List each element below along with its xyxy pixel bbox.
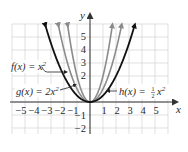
annotation-h: h(x) = 1 2 x2 <box>108 84 169 99</box>
x-tick-label: 5 <box>153 105 158 116</box>
y-tick-label: 5 <box>81 31 86 42</box>
label-f: f(x) = x2 <box>11 60 47 73</box>
y-axis-label: y <box>79 9 85 21</box>
x-tick-label: −3 <box>41 105 52 116</box>
annotation-g: g(x) = 2x2 <box>15 84 75 98</box>
parabola-graph: x y −5 −4 −3 −2 −1 1 2 3 4 5 5 4 3 2 −1 … <box>0 0 188 152</box>
y-tick-labels: 5 4 3 2 −1 −2 <box>75 31 87 134</box>
label-h: h(x) = <box>119 86 146 98</box>
fraction-denominator: 2 <box>152 93 155 99</box>
y-tick-label: 4 <box>81 44 87 55</box>
x-tick-label: −2 <box>54 105 65 116</box>
x-axis-label: x <box>175 103 181 115</box>
x-tick-label: 4 <box>140 105 146 116</box>
y-tick-label: 2 <box>81 70 86 81</box>
fraction-numerator: 1 <box>152 86 155 92</box>
label-g: g(x) = 2x2 <box>16 85 59 98</box>
x-tick-label: 2 <box>114 105 119 116</box>
x-tick-label: 3 <box>127 105 132 116</box>
x-tick-label: −5 <box>15 105 26 116</box>
y-tick-label: −1 <box>75 110 86 121</box>
x-tick-label: 1 <box>101 105 106 116</box>
y-tick-label: 3 <box>81 57 86 68</box>
x-tick-labels: −5 −4 −3 −2 −1 1 2 3 4 5 <box>15 105 158 116</box>
x-tick-label: −4 <box>28 105 40 116</box>
y-tick-label: −2 <box>75 123 86 134</box>
